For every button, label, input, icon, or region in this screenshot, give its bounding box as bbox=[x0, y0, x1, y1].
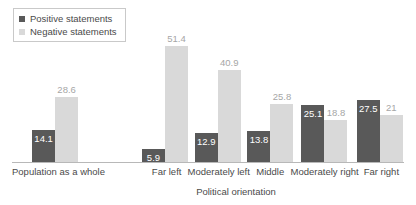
bar-negative[interactable]: 51.4 bbox=[165, 46, 188, 162]
bar-pair: 5.951.4 bbox=[142, 18, 188, 162]
category-label: Far right bbox=[359, 166, 404, 178]
legend-item-positive[interactable]: Positive statements bbox=[19, 13, 117, 24]
bar-value-label: 51.4 bbox=[167, 33, 186, 44]
category-label: Far left bbox=[146, 166, 188, 178]
bar-value-label: 13.8 bbox=[250, 134, 269, 145]
legend-swatch-negative-icon bbox=[19, 29, 25, 35]
category-label: Middle bbox=[250, 166, 291, 178]
bar-positive[interactable]: 13.8 bbox=[247, 131, 270, 162]
bar-group: 5.951.4 bbox=[142, 18, 188, 162]
chart-legend: Positive statements Negative statements bbox=[13, 8, 126, 42]
legend-item-negative[interactable]: Negative statements bbox=[19, 26, 117, 37]
legend-swatch-positive-icon bbox=[19, 16, 25, 22]
bar-value-label: 21 bbox=[386, 102, 397, 113]
bar-positive[interactable]: 12.9 bbox=[195, 133, 218, 162]
bar-chart: Positive statements Negative statements … bbox=[0, 0, 416, 205]
bar-pair: 25.118.8 bbox=[301, 18, 347, 162]
bar-value-label: 18.8 bbox=[327, 107, 346, 118]
x-axis-title: Political orientation bbox=[0, 186, 416, 198]
category-spacer bbox=[105, 166, 146, 178]
bar-pair: 12.940.9 bbox=[195, 18, 241, 162]
category-label: Population as a whole bbox=[12, 166, 105, 178]
bar-pair: 13.825.8 bbox=[247, 18, 293, 162]
bar-group: 13.825.8 bbox=[247, 18, 293, 162]
bar-positive[interactable]: 5.9 bbox=[142, 149, 165, 162]
bar-group: 27.521 bbox=[355, 18, 404, 162]
bar-negative[interactable]: 18.8 bbox=[324, 120, 347, 162]
legend-label-positive: Positive statements bbox=[30, 13, 112, 24]
category-label: Moderately left bbox=[188, 166, 250, 178]
bar-value-label: 28.6 bbox=[57, 84, 76, 95]
bar-negative[interactable]: 28.6 bbox=[55, 97, 78, 162]
bar-negative[interactable]: 40.9 bbox=[218, 70, 241, 162]
bar-value-label: 25.8 bbox=[273, 91, 292, 102]
bar-positive[interactable]: 25.1 bbox=[301, 105, 324, 162]
category-label: Moderately right bbox=[291, 166, 359, 178]
bar-positive[interactable]: 27.5 bbox=[357, 100, 380, 162]
bar-value-label: 12.9 bbox=[197, 136, 216, 147]
x-axis-line bbox=[12, 162, 404, 163]
bar-value-label: 25.1 bbox=[304, 108, 323, 119]
bar-pair: 27.521 bbox=[357, 18, 403, 162]
bar-negative[interactable]: 25.8 bbox=[270, 104, 293, 162]
x-axis-category-labels: Population as a wholeFar leftModerately … bbox=[12, 166, 404, 178]
bar-positive[interactable]: 14.1 bbox=[32, 130, 55, 162]
x-axis-title-text: Political orientation bbox=[196, 186, 276, 198]
bar-negative[interactable]: 21 bbox=[380, 115, 403, 162]
bar-value-label: 40.9 bbox=[220, 57, 239, 68]
bar-group: 25.118.8 bbox=[293, 18, 355, 162]
legend-label-negative: Negative statements bbox=[30, 26, 117, 37]
bar-group: 12.940.9 bbox=[188, 18, 248, 162]
bar-value-label: 14.1 bbox=[34, 133, 53, 144]
bar-value-label: 27.5 bbox=[359, 103, 378, 114]
